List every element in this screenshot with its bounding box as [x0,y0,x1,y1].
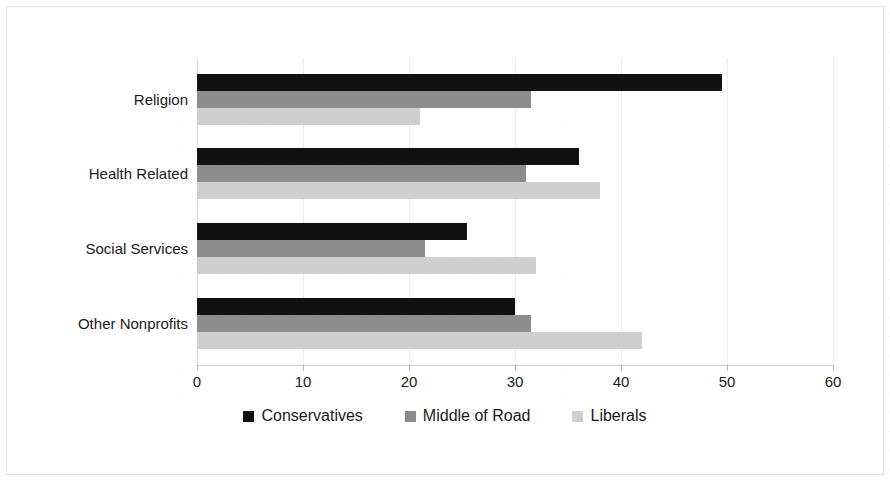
x-tick-label-30: 30 [485,374,545,389]
bar-liberals-social-services [197,257,536,274]
square-swatch-icon [572,411,583,422]
gridline-60 [833,58,834,365]
category-label-religion: Religion [0,92,188,107]
legend-item-middle-of-road[interactable]: Middle of Road [405,408,531,424]
x-tick-label-50: 50 [697,374,757,389]
bar-conservatives-social-services [197,223,467,240]
x-tick-mark-20 [409,365,410,371]
bar-row [197,223,833,240]
bar-group-social-services [197,223,833,274]
legend-item-liberals[interactable]: Liberals [572,408,646,424]
bar-group-other-nonprofits [197,298,833,349]
bar-group-religion [197,74,833,125]
x-tick-label-20: 20 [379,374,439,389]
legend-label: Conservatives [261,408,362,424]
legend-item-conservatives[interactable]: Conservatives [243,408,362,424]
x-tick-mark-0 [197,365,198,371]
x-tick-mark-30 [515,365,516,371]
bar-row [197,298,833,315]
bar-row [197,165,833,182]
x-tick-mark-60 [833,365,834,371]
category-label-health-related: Health Related [0,166,188,181]
x-tick-label-0: 0 [167,374,227,389]
chart-legend: ConservativesMiddle of RoadLiberals [0,408,890,424]
bar-middle-of-road-health-related [197,165,526,182]
x-tick-mark-10 [303,365,304,371]
x-tick-label-60: 60 [803,374,863,389]
bar-row [197,91,833,108]
x-tick-label-40: 40 [591,374,651,389]
bar-row [197,332,833,349]
bar-liberals-religion [197,108,420,125]
legend-label: Middle of Road [423,408,531,424]
bar-middle-of-road-religion [197,91,531,108]
bar-row [197,108,833,125]
bar-row [197,240,833,257]
bar-liberals-other-nonprofits [197,332,642,349]
square-swatch-icon [405,411,416,422]
bar-conservatives-other-nonprofits [197,298,515,315]
bar-middle-of-road-other-nonprofits [197,315,531,332]
bar-group-health-related [197,148,833,199]
bar-middle-of-road-social-services [197,240,425,257]
plot-area [197,58,833,365]
bar-row [197,148,833,165]
x-tick-mark-50 [727,365,728,371]
category-label-social-services: Social Services [0,241,188,256]
bar-conservatives-health-related [197,148,579,165]
x-tick-mark-40 [621,365,622,371]
bar-row [197,315,833,332]
legend-label: Liberals [590,408,646,424]
bar-conservatives-religion [197,74,722,91]
bar-row [197,257,833,274]
bar-row [197,74,833,91]
bar-chart-figure: ReligionHealth RelatedSocial ServicesOth… [0,0,890,481]
bar-liberals-health-related [197,182,600,199]
square-swatch-icon [243,411,254,422]
bar-row [197,182,833,199]
category-label-other-nonprofits: Other Nonprofits [0,316,188,331]
x-tick-label-10: 10 [273,374,333,389]
